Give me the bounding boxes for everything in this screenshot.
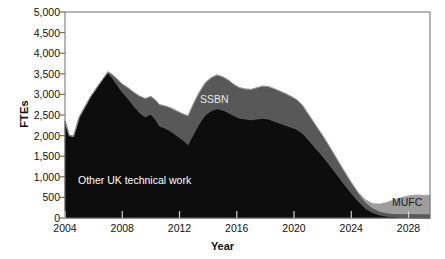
x-tick-label: 2012 [155,222,205,234]
series-label-ssbn: SSBN [200,93,229,105]
x-tick-label: 2028 [384,222,434,234]
x-tick-label: 2024 [326,222,376,234]
x-tick-label: 2004 [40,222,90,234]
plot-area [0,0,445,259]
x-tick-label: 2016 [212,222,262,234]
x-tick-label: 2020 [269,222,319,234]
series-label-other-uk-technical-work: Other UK technical work [78,174,191,186]
series-label-mufc: MUFC [392,196,422,208]
stacked-area-chart: 05001,0001,5002,0002,5003,0003,5004,0004… [0,0,445,259]
x-tick-label: 2008 [97,222,147,234]
